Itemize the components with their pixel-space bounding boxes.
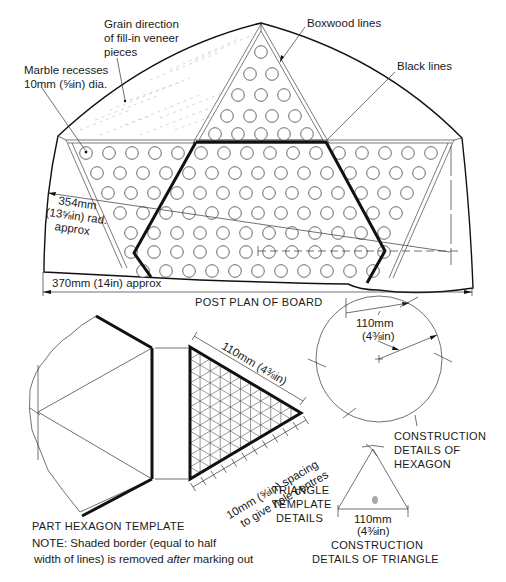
triangle-side-label-2: (4⅜in) [357,525,390,537]
triangle-template-caption-1: TRIANGLE [272,484,329,496]
board-plan-caption: POST PLAN OF BOARD [195,296,322,308]
diagram-canvas: Grain direction of fill-in veneer pieces… [0,0,506,582]
hexagon-radius-label-2: (4⅜in) [362,330,395,342]
hexagon-construction-caption-1: CONSTRUCTION [394,430,486,442]
width-label: 370mm (14in) approx [52,277,162,289]
grain-leader [117,58,125,100]
hexagon-template-note-1: NOTE: Shaded border (equal to half [32,537,217,549]
triangle-template-caption-3: DETAILS [276,512,323,524]
triangle-template-caption-2: TEMPLATE [272,498,332,510]
triangle-side-label-1: 110mm [354,513,392,525]
marble-leader [42,88,85,150]
hexagon-template-caption: PART HEXAGON TEMPLATE [32,520,185,532]
radius-line [48,193,450,252]
hexagon-template-outline [29,316,152,512]
top-triangle-outer [193,24,329,143]
black-lines-label: Black lines [397,60,452,72]
grain-label-2: of fill-in veneer [104,32,179,44]
hexagon-template-note-2: width of lines) is removed after marking… [33,553,254,565]
part-hexagon-template [29,316,188,516]
grain-label-1: Grain direction [104,18,179,30]
marble-label-2: 10mm (⅝in) dia. [24,78,107,90]
hexagon-construction-caption-3: HEXAGON [394,458,451,470]
marble-label-1: Marble recesses [24,64,109,76]
hexagon-construction-caption-2: DETAILS OF [394,444,460,456]
black-leader [327,72,395,140]
hexagon-radius-label-1: 110mm [356,317,394,329]
boxwood-label: Boxwood lines [307,17,381,29]
triangle-construction-caption-2: DETAILS OF TRIANGLE [312,553,439,565]
grain-label-3: pieces [104,46,137,58]
triangle-construction-caption-1: CONSTRUCTION [331,539,423,551]
hexagon-construction [308,296,452,426]
